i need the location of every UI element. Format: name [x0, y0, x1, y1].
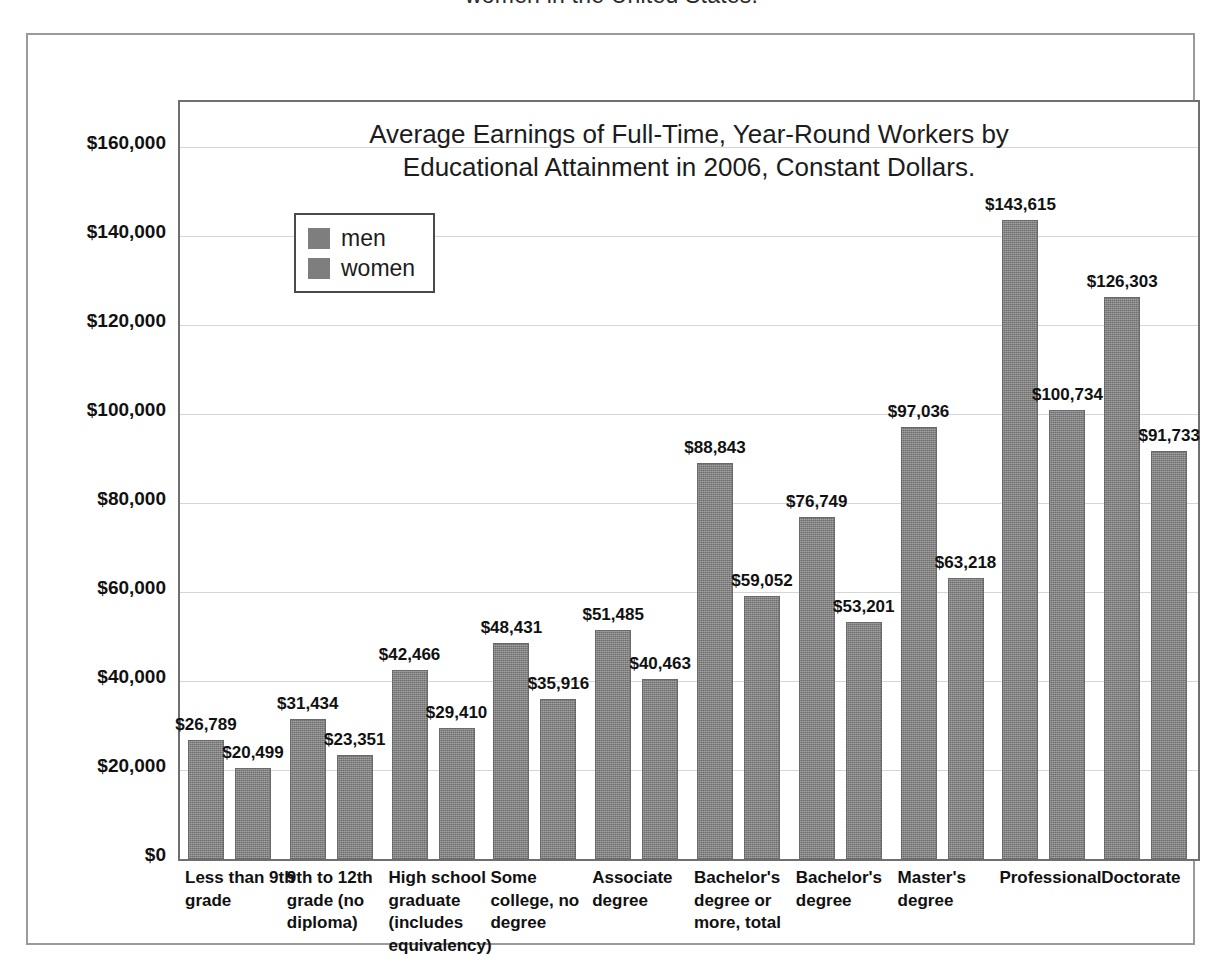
bar-men	[1002, 220, 1038, 860]
y-axis-tick-label: $0	[6, 844, 166, 866]
x-axis-category-labels: Less than 9th grade9th to 12th grade (no…	[178, 867, 1200, 967]
y-axis-tick-label: $160,000	[6, 132, 166, 154]
bar-value-label-men: $31,434	[248, 694, 368, 714]
bar-group: $126,303$91,733	[1096, 102, 1198, 859]
bar-men	[799, 517, 835, 859]
bar-men	[697, 463, 733, 859]
bar-value-label-men: $51,485	[553, 605, 673, 625]
x-axis-label: Associate degree	[592, 867, 704, 912]
bar-women	[744, 596, 780, 859]
clipped-caption: women in the United States.	[0, 0, 1223, 18]
bar-group: $97,036$63,218	[893, 102, 995, 859]
bar-women	[1049, 410, 1085, 859]
bar-women	[846, 622, 882, 859]
bar-group: $76,749$53,201	[791, 102, 893, 859]
bar-group: $48,431$35,916	[485, 102, 587, 859]
figure-frame: Average Earnings of Full-Time, Year-Roun…	[26, 33, 1195, 945]
bar-value-label-men: $126,303	[1062, 272, 1182, 292]
bar-value-label-men: $143,615	[960, 195, 1080, 215]
bar-men	[901, 427, 937, 859]
bar-women	[235, 768, 271, 859]
y-axis-tick-label: $20,000	[6, 755, 166, 777]
x-axis-label: Doctorate	[1101, 867, 1213, 890]
x-axis-label: Bachelor's degree	[796, 867, 908, 912]
bar-group: $26,789$20,499	[180, 102, 282, 859]
x-axis-label: Less than 9th grade	[185, 867, 297, 912]
y-axis-tick-label: $80,000	[6, 488, 166, 510]
bar-value-label-men: $88,843	[655, 438, 775, 458]
bar-women	[540, 699, 576, 859]
bar-women	[1151, 451, 1187, 859]
bar-group: $42,466$29,410	[384, 102, 486, 859]
x-axis-label: High school graduate (includes equivalen…	[389, 867, 501, 957]
bar-men	[392, 670, 428, 859]
x-axis-label: Master's degree	[898, 867, 1010, 912]
bar-value-label-men: $97,036	[859, 402, 979, 422]
bar-group: $31,434$23,351	[282, 102, 384, 859]
chart-plot-area: Average Earnings of Full-Time, Year-Roun…	[178, 100, 1200, 861]
bar-men	[1104, 297, 1140, 859]
x-axis-label: Bachelor's degree or more, total	[694, 867, 806, 935]
y-axis-tick-label: $140,000	[6, 221, 166, 243]
plot-inner: Average Earnings of Full-Time, Year-Roun…	[180, 102, 1198, 859]
y-axis-tick-label: $120,000	[6, 310, 166, 332]
bar-value-label-men: $26,789	[146, 715, 266, 735]
bar-group: $88,843$59,052	[689, 102, 791, 859]
bar-value-label-men: $42,466	[350, 645, 470, 665]
x-axis-label: Professional	[999, 867, 1111, 890]
bar-value-label-women: $91,733	[1109, 426, 1223, 446]
clipped-caption-text: women in the United States.	[465, 0, 758, 8]
x-axis-label: Some college, no degree	[490, 867, 602, 935]
y-axis-tick-label: $40,000	[6, 666, 166, 688]
x-axis-label: 9th to 12th grade (no diploma)	[287, 867, 399, 935]
bars-layer: $26,789$20,499$31,434$23,351$42,466$29,4…	[180, 102, 1198, 859]
bar-women	[439, 728, 475, 859]
bar-women	[948, 578, 984, 860]
bar-women	[642, 679, 678, 859]
bar-group: $51,485$40,463	[587, 102, 689, 859]
bar-group: $143,615$100,734	[994, 102, 1096, 859]
y-axis-tick-label: $100,000	[6, 399, 166, 421]
bar-women	[337, 755, 373, 859]
bar-value-label-men: $76,749	[757, 492, 877, 512]
y-axis-tick-label: $60,000	[6, 577, 166, 599]
